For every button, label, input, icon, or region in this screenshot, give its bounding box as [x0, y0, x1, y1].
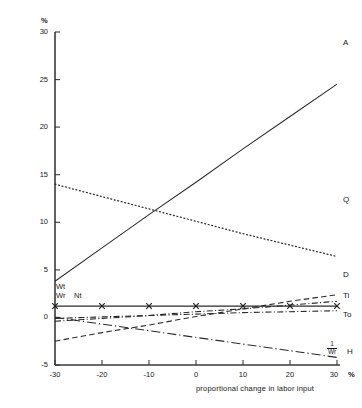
series-line-D [55, 295, 337, 342]
x-tick-label-minus10: -10 [134, 371, 164, 379]
y-tick-label-25: 25 [26, 76, 48, 84]
y-tick-label-20: 20 [26, 123, 48, 131]
x-tick-marks [55, 360, 337, 365]
x-tick-label-minus20: -20 [87, 371, 117, 379]
chart-canvas [0, 0, 362, 408]
x-tick-label-30: 30 [319, 371, 349, 379]
series-label-A: A [343, 39, 348, 47]
series-label-H: H [347, 348, 353, 356]
y-tick-label-30: 30 [26, 28, 48, 36]
x-tick-label-minus30: -30 [40, 371, 70, 379]
y-tick-label-0: 0 [26, 313, 48, 321]
left-label-Wt: Wt [56, 283, 65, 291]
y-tick-label-15: 15 [26, 171, 48, 179]
series-label-H-fraction: 1 Wr [327, 341, 337, 356]
y-tick-label-minus5: -5 [26, 361, 48, 369]
series-line-Q [55, 184, 337, 256]
series-label-Q: Q [343, 196, 349, 204]
x-axis-title: proportional change in labor input [196, 385, 314, 393]
x-tick-label-20: 20 [275, 371, 305, 379]
x-tick-label-0: 0 [181, 371, 211, 379]
y-tick-label-10: 10 [26, 218, 48, 226]
series-label-Ti: Ti [343, 292, 349, 300]
x-tick-label-10: 10 [228, 371, 258, 379]
y-axis-unit-label: % [41, 17, 48, 25]
fraction-denominator: Wr [327, 349, 337, 356]
x-axis-unit-label: % [348, 371, 355, 379]
chart-figure: % 30 25 20 15 10 5 0 -5 -30 -20 -10 0 10… [0, 0, 362, 408]
series-label-To: To [343, 311, 351, 319]
series-label-D: D [343, 271, 349, 279]
left-label-Nt: Nt [74, 292, 82, 300]
y-tick-label-5: 5 [26, 266, 48, 274]
series-line-A [55, 84, 337, 281]
left-label-Wr: Wr [56, 292, 65, 300]
series-line-H [55, 317, 337, 357]
